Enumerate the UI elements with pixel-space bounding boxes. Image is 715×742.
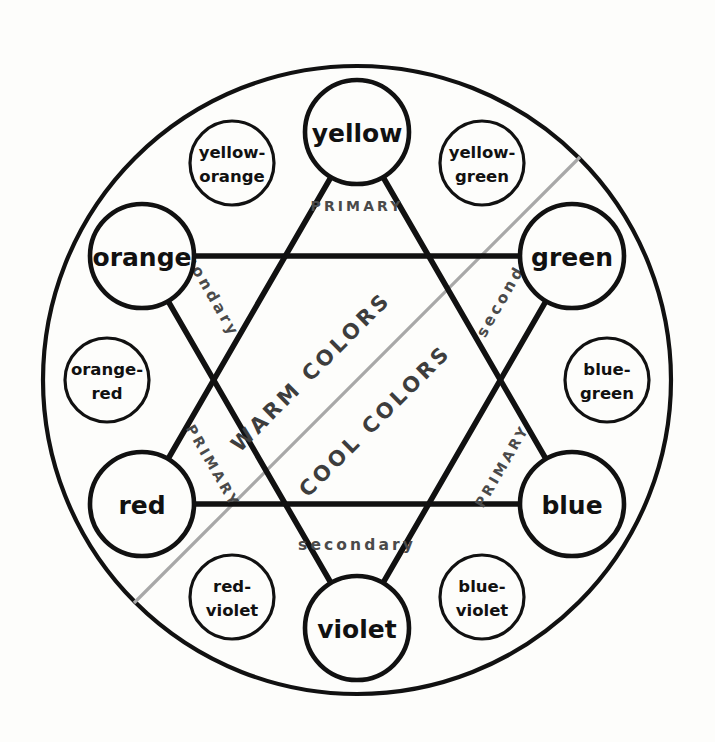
node-blue-green[interactable]: blue- green: [565, 338, 649, 422]
node-blue[interactable]: blue: [520, 452, 624, 556]
color-wheel-diagram: PRIMARY PRIMARY PRIMARY secondary second…: [0, 0, 715, 742]
node-yellow[interactable]: yellow: [305, 80, 409, 184]
node-yellow-orange[interactable]: yellow- orange: [190, 121, 274, 205]
node-red-violet-circle: [190, 555, 274, 639]
color-wheel-svg: PRIMARY PRIMARY PRIMARY secondary second…: [0, 0, 715, 742]
node-blue-green-line2: green: [580, 384, 634, 403]
edge-label-primary-top: PRIMARY: [311, 198, 404, 214]
node-orange-red-line1: orange-: [71, 360, 143, 379]
node-orange[interactable]: orange: [90, 204, 194, 308]
node-blue-green-circle: [565, 338, 649, 422]
node-violet[interactable]: violet: [305, 576, 409, 680]
node-green[interactable]: green: [520, 204, 624, 308]
node-yellow-orange-line1: yellow-: [199, 143, 266, 162]
node-yellow-orange-line2: orange: [199, 167, 264, 186]
node-green-label: green: [531, 243, 613, 272]
node-blue-violet-circle: [440, 555, 524, 639]
node-red-violet-line2: violet: [206, 601, 259, 620]
node-orange-red-line2: red: [91, 384, 122, 403]
node-red-label: red: [118, 491, 165, 520]
node-blue-label: blue: [541, 491, 602, 520]
node-yellow-label: yellow: [312, 119, 403, 148]
node-blue-green-line1: blue-: [583, 360, 630, 379]
node-orange-red[interactable]: orange- red: [65, 338, 149, 422]
node-red[interactable]: red: [90, 452, 194, 556]
node-red-violet-line1: red-: [213, 577, 251, 596]
node-yellow-green-circle: [440, 121, 524, 205]
node-orange-red-circle: [65, 338, 149, 422]
node-yellow-green-line1: yellow-: [449, 143, 516, 162]
edge-label-secondary-bottom: secondary: [298, 536, 416, 554]
node-blue-violet-line2: violet: [456, 601, 509, 620]
node-blue-violet[interactable]: blue- violet: [440, 555, 524, 639]
node-red-violet[interactable]: red- violet: [190, 555, 274, 639]
node-blue-violet-line1: blue-: [458, 577, 505, 596]
node-orange-label: orange: [92, 243, 191, 272]
node-violet-label: violet: [317, 615, 397, 644]
node-yellow-green-line2: green: [455, 167, 509, 186]
node-yellow-orange-circle: [190, 121, 274, 205]
node-yellow-green[interactable]: yellow- green: [440, 121, 524, 205]
